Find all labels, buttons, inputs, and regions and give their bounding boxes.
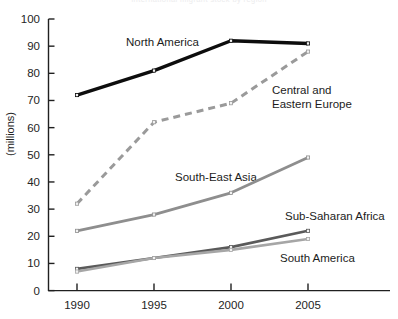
series-line-sub-saharan-africa xyxy=(77,231,308,269)
data-point xyxy=(306,156,309,159)
data-point xyxy=(229,39,232,42)
data-point xyxy=(306,229,309,232)
data-point xyxy=(75,229,78,232)
series-line-north-america xyxy=(77,41,308,95)
data-point xyxy=(152,69,155,72)
x-tick-marks xyxy=(77,284,308,291)
data-point xyxy=(75,202,78,205)
data-point xyxy=(229,191,232,194)
data-point xyxy=(75,93,78,96)
data-point xyxy=(75,270,78,273)
data-point xyxy=(306,50,309,53)
series-line-central-and-eastern-europe xyxy=(77,52,308,204)
series-line-south-america xyxy=(77,239,308,272)
data-point xyxy=(152,213,155,216)
data-point xyxy=(152,121,155,124)
data-point xyxy=(306,237,309,240)
chart-plot-area xyxy=(0,0,398,319)
migration-line-chart: International migrant stock by region (m… xyxy=(0,0,398,319)
data-point xyxy=(152,256,155,259)
data-point xyxy=(229,248,232,251)
y-tick-marks xyxy=(49,19,55,291)
series-lines xyxy=(77,41,308,272)
data-point xyxy=(306,42,309,45)
data-point xyxy=(229,102,232,105)
